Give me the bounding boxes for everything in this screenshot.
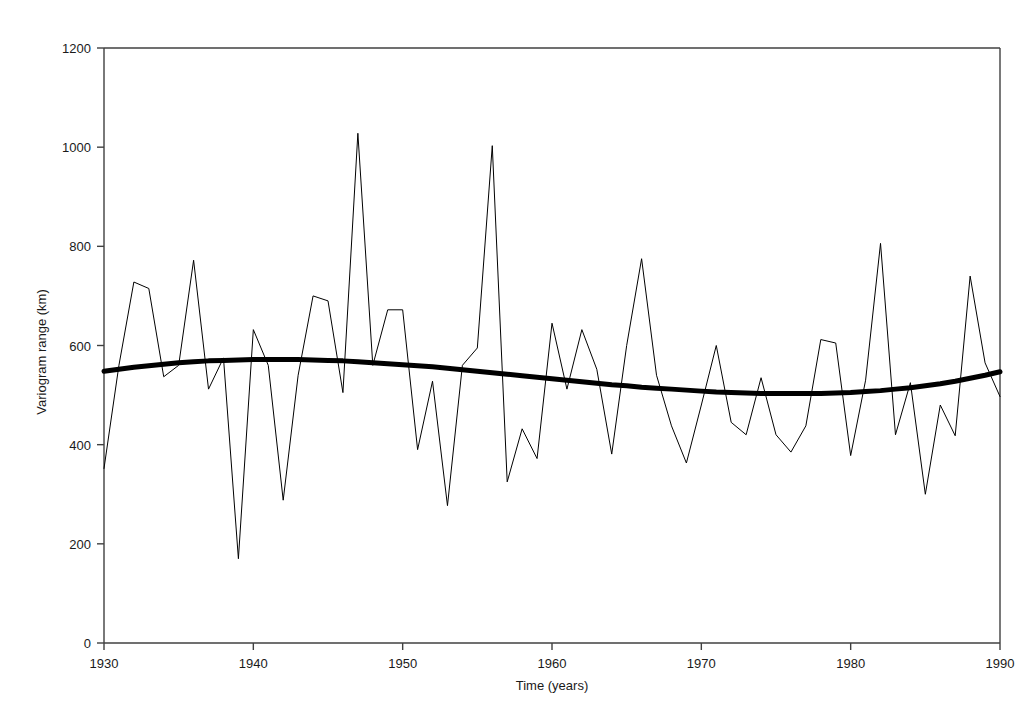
y-tick-label-800: 800: [69, 239, 91, 254]
x-tick-label-1950: 1950: [388, 656, 417, 671]
y-tick-label-1200: 1200: [62, 41, 91, 56]
chart-background: [0, 0, 1024, 724]
variogram-range-chart: 020040060080010001200 193019401950196019…: [0, 0, 1024, 724]
x-tick-label-1930: 1930: [90, 656, 119, 671]
x-tick-label-1990: 1990: [986, 656, 1015, 671]
x-tick-label-1960: 1960: [538, 656, 567, 671]
x-tick-label-1980: 1980: [836, 656, 865, 671]
y-tick-label-400: 400: [69, 438, 91, 453]
y-axis-title: Variogram range (km): [34, 289, 49, 414]
x-axis-title: Time (years): [516, 678, 588, 693]
y-tick-label-1000: 1000: [62, 140, 91, 155]
y-tick-label-200: 200: [69, 537, 91, 552]
y-tick-label-600: 600: [69, 339, 91, 354]
x-tick-label-1970: 1970: [687, 656, 716, 671]
x-tick-label-1940: 1940: [239, 656, 268, 671]
y-tick-label-0: 0: [84, 636, 91, 651]
